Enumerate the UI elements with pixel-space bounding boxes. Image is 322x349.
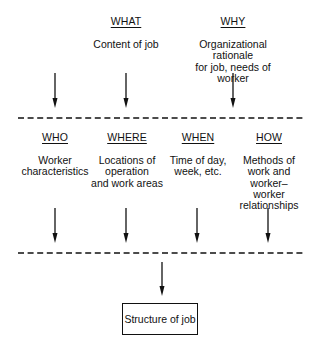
description-how: Methods of work and worker–worker relati… (240, 155, 299, 211)
heading-who: WHO (42, 131, 68, 143)
description-who: Worker characteristics (21, 155, 88, 178)
heading-why: WHY (221, 15, 246, 27)
middle-arrows (53, 208, 271, 243)
structure-of-job-label: Structure of job (124, 313, 195, 325)
description-where: Locations of operation and work areas (91, 155, 163, 189)
heading-when: WHEN (182, 131, 214, 143)
structure-of-job-box: Structure of job (122, 303, 198, 335)
heading-where: WHERE (107, 131, 147, 143)
heading-what: WHAT (111, 15, 142, 27)
description-when: Time of day, week, etc. (170, 155, 227, 178)
description-why: Organizational rationale for job, needs … (189, 39, 278, 84)
heading-how: HOW (256, 131, 282, 143)
description-what: Content of job (93, 39, 158, 50)
